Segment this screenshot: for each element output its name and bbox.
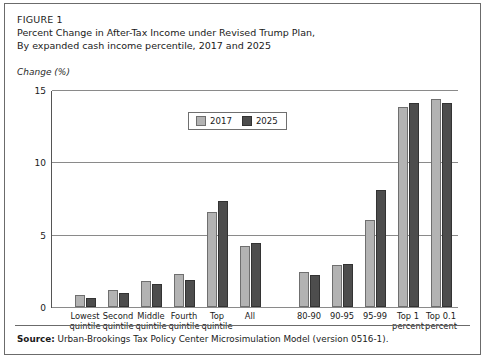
y-axis-tick-label: 10 <box>35 158 46 168</box>
bar-group: Top 1percent <box>393 90 423 307</box>
legend-entry-2017: 2017 <box>196 116 232 126</box>
x-axis-category-label: 90-95 <box>330 311 354 321</box>
source-label: Source: <box>17 334 55 344</box>
bar-2025 <box>218 201 228 307</box>
chart-legend: 2017 2025 <box>188 112 287 130</box>
bar-2025 <box>86 298 96 307</box>
footer-divider <box>15 325 470 326</box>
x-axis-category-label: Topquintile <box>201 311 232 331</box>
bar-2025 <box>310 275 320 307</box>
bar-2017 <box>365 220 375 307</box>
bar-2025 <box>185 280 195 307</box>
y-axis-tick-label: 15 <box>35 86 46 96</box>
bar-2017 <box>108 290 118 307</box>
figure-title-line-1: Percent Change in After-Tax Income under… <box>17 26 457 39</box>
legend-swatch-2025-icon <box>242 116 252 126</box>
source-text: Urban-Brookings Tax Policy Center Micros… <box>55 334 389 344</box>
y-axis-tick-label: 0 <box>40 303 46 313</box>
bar-2017 <box>75 295 85 307</box>
bar-2017 <box>431 99 441 307</box>
bar-2017 <box>174 274 184 307</box>
figure-header: FIGURE 1 Percent Change in After-Tax Inc… <box>17 13 457 52</box>
bar-2017 <box>141 281 151 307</box>
bar-group: 95-99 <box>360 90 390 307</box>
x-axis-category-label: Top 0.1percent <box>425 311 457 331</box>
figure-title-line-2: By expanded cash income percentile, 2017… <box>17 39 457 52</box>
bar-2017 <box>398 107 408 307</box>
y-axis-units-label: Change (%) <box>17 67 70 77</box>
bar-2025 <box>409 103 419 307</box>
x-axis-category-label: Secondquintile <box>102 311 133 331</box>
bar-2017 <box>240 246 250 307</box>
bar-group: 80-90 <box>294 90 324 307</box>
source-note: Source: Urban-Brookings Tax Policy Cente… <box>17 333 467 345</box>
x-axis-category-label: 95-99 <box>363 311 387 321</box>
bar-group: Secondquintile <box>103 90 133 307</box>
bar-2025 <box>343 264 353 307</box>
bar-2025 <box>152 284 162 307</box>
bar-2025 <box>119 293 129 307</box>
x-axis-category-label: Top 1percent <box>392 311 424 331</box>
bar-group: Middlequintile <box>136 90 166 307</box>
figure-container: FIGURE 1 Percent Change in After-Tax Inc… <box>4 3 481 355</box>
bar-group: Lowestquintile <box>70 90 100 307</box>
legend-label-2017: 2017 <box>210 116 232 126</box>
bar-2025 <box>442 103 452 307</box>
bar-group: 90-95 <box>327 90 357 307</box>
x-axis-category-label: Middlequintile <box>135 311 166 331</box>
legend-label-2025: 2025 <box>256 116 278 126</box>
figure-label: FIGURE 1 <box>17 13 457 26</box>
x-axis-category-label: All <box>245 311 255 321</box>
bar-2017 <box>332 265 342 307</box>
legend-swatch-2017-icon <box>196 116 206 126</box>
x-axis-category-label: Lowestquintile <box>69 311 100 331</box>
bar-2017 <box>207 212 217 307</box>
bar-2017 <box>299 272 309 307</box>
x-axis-category-label: Fourthquintile <box>168 311 199 331</box>
bar-group: Top 0.1percent <box>426 90 456 307</box>
bar-2025 <box>251 243 261 307</box>
bar-2025 <box>376 190 386 307</box>
x-axis-category-label: 80-90 <box>297 311 321 321</box>
gridline-0 <box>52 307 458 308</box>
legend-entry-2025: 2025 <box>242 116 278 126</box>
y-axis-tick-label: 5 <box>40 231 46 241</box>
